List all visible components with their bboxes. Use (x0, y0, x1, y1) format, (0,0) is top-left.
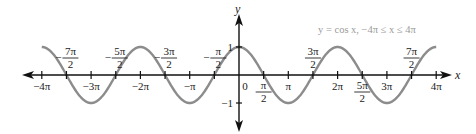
fraction-numerator: π (261, 79, 267, 91)
fraction-numerator: 5π (114, 45, 126, 57)
x-tick-label: −4π (33, 80, 51, 92)
fraction-denominator: 2 (216, 58, 222, 70)
fraction-denominator: 2 (310, 58, 316, 70)
y-tick-label: 1 (228, 41, 234, 53)
x-tick-label: 4π (431, 80, 443, 92)
x-axis-label: x (454, 68, 461, 82)
fraction-sign: − (154, 51, 160, 63)
x-tick-label: 0 (242, 80, 248, 92)
x-tick-label: −3π (82, 80, 100, 92)
fraction-numerator: π (216, 45, 222, 57)
fraction-denominator: 2 (117, 58, 123, 70)
y-tick-label: −1 (221, 97, 233, 109)
x-tick-label: π (286, 80, 292, 92)
chart-title: y = cos x, −4π ≤ x ≤ 4π (318, 24, 417, 35)
fraction-sign: − (105, 51, 111, 63)
x-tick-label: −π (184, 80, 196, 92)
fraction-sign: − (55, 51, 61, 63)
x-tick-label: −2π (132, 80, 150, 92)
x-tick-label: 2π (332, 80, 344, 92)
fraction-denominator: 2 (166, 58, 172, 70)
fraction-numerator: 3π (164, 45, 176, 57)
fraction-denominator: 2 (68, 58, 74, 70)
fraction-numerator: 3π (307, 45, 319, 57)
y-axis-label: y (234, 2, 241, 16)
fraction-denominator: 2 (409, 58, 415, 70)
fraction-denominator: 2 (360, 92, 366, 104)
cosine-graph: xy1−1−4π−3π−2π−π0π2π3π4π−7π2−5π2−3π2−π23… (0, 0, 476, 134)
plot-area: xy1−1−4π−3π−2π−π0π2π3π4π−7π2−5π2−3π2−π23… (0, 0, 476, 134)
fraction-denominator: 2 (261, 92, 267, 104)
fraction-numerator: 5π (357, 79, 369, 91)
fraction-sign: − (203, 51, 209, 63)
fraction-numerator: 7π (65, 45, 77, 57)
fraction-numerator: 7π (406, 45, 418, 57)
x-tick-label: 3π (381, 80, 393, 92)
